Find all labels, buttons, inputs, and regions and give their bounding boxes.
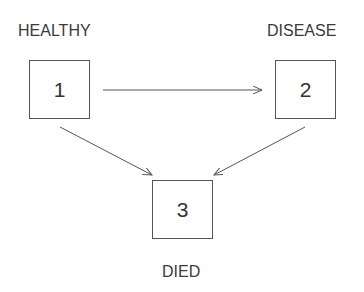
state-label-disease: DISEASE: [267, 22, 336, 40]
arrow-disease-to-died: [214, 127, 305, 175]
state-label-died: DIED: [162, 263, 200, 281]
arrow-healthy-to-died: [60, 127, 152, 175]
state-diagram: HEALTHY DISEASE DIED 1 2 3: [0, 0, 364, 292]
state-label-healthy: HEALTHY: [18, 22, 91, 40]
transition-arrows: [0, 0, 364, 292]
state-box-2: 2: [275, 60, 336, 119]
state-box-3: 3: [152, 180, 213, 239]
state-box-1: 1: [29, 60, 90, 119]
